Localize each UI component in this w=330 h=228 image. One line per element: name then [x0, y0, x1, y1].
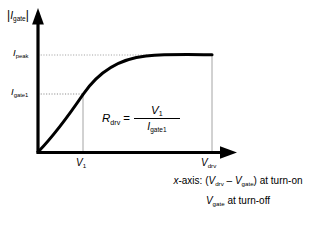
- caption-line-turn-on: x-axis: (Vdrv – Vgate) at turn-on: [148, 176, 328, 186]
- caption-term2-symbol: V: [235, 175, 242, 186]
- caption-suffix-turn-on: ) at turn-on: [254, 175, 303, 186]
- caption-term2-subscript: gate: [242, 180, 254, 187]
- equation-lhs-subscript: drv: [110, 119, 120, 127]
- equation-numerator-symbol: V: [151, 104, 159, 116]
- x-tick-v1-symbol: V: [76, 157, 83, 168]
- x-tick-label-v1: V1: [76, 158, 86, 168]
- equation-fraction-rule: [134, 118, 180, 119]
- caption-operator: –: [224, 175, 235, 186]
- y-tick-igate1-subscript: gate1: [14, 92, 29, 98]
- x-tick-label-vdrv: Vdrv: [201, 158, 216, 168]
- x-tick-v1-subscript: 1: [83, 162, 86, 169]
- figure-gate-current-characteristic: |Igate| Ipeak Igate1 V1 Vdrv Rdrv = V1 I…: [0, 0, 330, 228]
- caption-line2-subscript: gate: [213, 200, 225, 207]
- y-axis-arrowhead: [32, 8, 44, 25]
- x-axis-arrowhead: [220, 146, 237, 159]
- equation-fraction: V1 Igate1: [134, 103, 180, 134]
- caption-line-turn-off: Vgate at turn-off: [148, 196, 328, 206]
- equation-lhs: Rdrv: [102, 112, 120, 124]
- equation-numerator-subscript: 1: [159, 110, 163, 118]
- caption-line2-symbol: V: [206, 195, 213, 206]
- x-tick-vdrv-subscript: drv: [208, 162, 217, 169]
- y-tick-ipeak-subscript: peak: [16, 53, 29, 59]
- caption-block: x-axis: (Vdrv – Vgate) at turn-on Vgate …: [148, 176, 328, 206]
- equation-denominator-subscript: gate1: [150, 126, 166, 133]
- y-axis-title-subscript: gate: [13, 15, 26, 22]
- caption-axis-rest: -axis: (: [178, 175, 208, 186]
- equation-equals-sign: =: [123, 112, 130, 124]
- caption-term1-subscript: drv: [215, 180, 224, 187]
- equation-numerator: V1: [146, 103, 168, 117]
- x-tick-vdrv-symbol: V: [201, 157, 208, 168]
- equation-drive-resistance: Rdrv = V1 Igate1: [102, 103, 180, 134]
- y-tick-label-ipeak: Ipeak: [13, 48, 28, 58]
- y-axis-title: |Igate|: [7, 9, 29, 21]
- caption-suffix-turn-off: at turn-off: [225, 195, 270, 206]
- y-axis-title-bar-close: |: [26, 8, 29, 22]
- equation-denominator: Igate1: [142, 120, 171, 133]
- y-tick-label-igate1: Igate1: [11, 87, 28, 97]
